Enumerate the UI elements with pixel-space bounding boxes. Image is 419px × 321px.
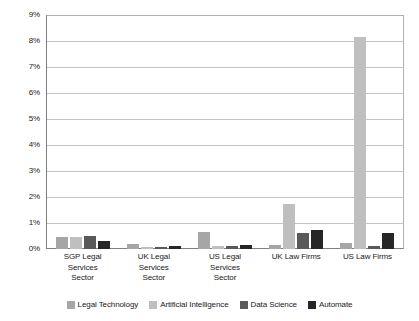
bar-legal-technology: [56, 237, 68, 249]
x-axis-label-line: Sector: [118, 273, 189, 284]
legend-item-automate[interactable]: Automate: [308, 300, 352, 309]
x-axis-label-line: Sector: [47, 273, 118, 284]
bar-artificial-intelligence: [141, 247, 153, 249]
legend-swatch-automate: [308, 301, 316, 309]
bar-automate: [382, 233, 394, 249]
legend-swatch-data-science: [240, 301, 248, 309]
legend-label-artificial-intelligence: Artificial Intelligence: [160, 300, 228, 309]
bar-data-science: [155, 247, 167, 249]
chart-legend: Legal TechnologyArtificial IntelligenceD…: [0, 300, 419, 309]
x-axis-label-line: Services: [189, 263, 260, 274]
x-axis-label-line: UK Law Firms: [261, 252, 332, 263]
bar-automate: [311, 230, 323, 250]
bar-group-us-legal-services-sector: [189, 15, 260, 249]
bar-data-science: [226, 246, 238, 249]
x-axis-label-uk-legal-services-sector: UK LegalServicesSector: [118, 252, 189, 284]
bar-data-science: [297, 233, 309, 249]
x-axis-label-line: Services: [118, 263, 189, 274]
bar-chart: 0%1%2%3%4%5%6%7%8%9% SGP LegalServicesSe…: [0, 0, 419, 321]
bar-artificial-intelligence: [70, 237, 82, 249]
x-axis-category-labels: SGP LegalServicesSectorUK LegalServicesS…: [47, 252, 403, 284]
x-axis-label-line: US Law Firms: [332, 252, 403, 263]
bar-group-uk-legal-services-sector: [118, 15, 189, 249]
y-axis-tick-4pct: 4%: [6, 141, 40, 149]
y-axis-tick-8pct: 8%: [6, 37, 40, 45]
x-axis-label-sgp-legal-services-sector: SGP LegalServicesSector: [47, 252, 118, 284]
plot-wrapper: 0%1%2%3%4%5%6%7%8%9% SGP LegalServicesSe…: [0, 0, 419, 321]
y-axis-tick-9pct: 9%: [6, 11, 40, 19]
y-axis-tick-0pct: 0%: [6, 245, 40, 253]
y-axis-tick-2pct: 2%: [6, 193, 40, 201]
legend-item-artificial-intelligence[interactable]: Artificial Intelligence: [149, 300, 228, 309]
x-axis-label-line: UK Legal: [118, 252, 189, 263]
bar-legal-technology: [269, 245, 281, 249]
legend-swatch-artificial-intelligence: [149, 301, 157, 309]
bar-legal-technology: [127, 244, 139, 249]
legend-item-data-science[interactable]: Data Science: [240, 300, 297, 309]
bar-groups: [47, 15, 403, 249]
legend-label-legal-technology: Legal Technology: [78, 300, 139, 309]
y-axis-tick-3pct: 3%: [6, 167, 40, 175]
x-axis-label-line: US Legal: [189, 252, 260, 263]
y-axis-tick-1pct: 1%: [6, 219, 40, 227]
bar-artificial-intelligence: [283, 204, 295, 250]
legend-label-automate: Automate: [319, 300, 352, 309]
x-axis-label-us-legal-services-sector: US LegalServicesSector: [189, 252, 260, 284]
bar-automate: [169, 246, 181, 249]
bar-artificial-intelligence: [354, 37, 366, 249]
x-axis-label-line: SGP Legal: [47, 252, 118, 263]
bar-legal-technology: [340, 243, 352, 250]
bar-group-us-law-firms: [332, 15, 403, 249]
legend-label-data-science: Data Science: [251, 300, 297, 309]
bar-data-science: [84, 236, 96, 249]
bar-data-science: [368, 246, 380, 249]
y-axis-tick-7pct: 7%: [6, 63, 40, 71]
bar-automate: [240, 245, 252, 249]
bar-automate: [98, 241, 110, 249]
x-axis-label-line: Sector: [189, 273, 260, 284]
bar-group-sgp-legal-services-sector: [47, 15, 118, 249]
bar-artificial-intelligence: [212, 246, 224, 249]
y-axis-tick-5pct: 5%: [6, 115, 40, 123]
x-axis-label-uk-law-firms: UK Law Firms: [261, 252, 332, 284]
y-axis-tick-6pct: 6%: [6, 89, 40, 97]
legend-swatch-legal-technology: [67, 301, 75, 309]
x-axis-label-line: Services: [47, 263, 118, 274]
bar-group-uk-law-firms: [261, 15, 332, 249]
bar-legal-technology: [198, 232, 210, 249]
x-axis-label-us-law-firms: US Law Firms: [332, 252, 403, 284]
legend-item-legal-technology[interactable]: Legal Technology: [67, 300, 139, 309]
